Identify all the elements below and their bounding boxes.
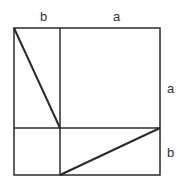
diagonal-top-left xyxy=(14,28,60,128)
diagram-canvas: b a a b xyxy=(0,0,182,189)
label-right-a: a xyxy=(167,81,175,96)
label-top-a: a xyxy=(113,9,121,24)
label-top-b: b xyxy=(40,9,47,24)
diagonal-bottom-right xyxy=(60,128,160,175)
outer-square xyxy=(14,28,160,175)
label-right-b: b xyxy=(167,145,174,160)
